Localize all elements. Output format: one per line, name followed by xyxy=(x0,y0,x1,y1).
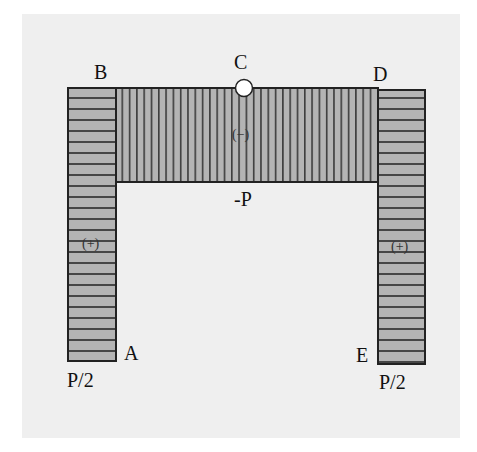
hinge-c-icon xyxy=(236,80,253,97)
node-label-d: D xyxy=(373,64,387,84)
node-label-e: E xyxy=(356,345,368,365)
node-label-b: B xyxy=(94,62,107,82)
value-right-column: P/2 xyxy=(379,372,406,392)
sign-left-column: (+) xyxy=(82,237,99,251)
value-beam: -P xyxy=(234,189,252,209)
value-left-column: P/2 xyxy=(67,370,94,390)
sign-beam: (−) xyxy=(232,128,249,142)
node-label-c: C xyxy=(234,52,247,72)
left-column-ab xyxy=(68,88,116,361)
node-label-a: A xyxy=(124,343,138,363)
sign-right-column: (+) xyxy=(391,240,408,254)
right-column-de xyxy=(378,90,425,364)
